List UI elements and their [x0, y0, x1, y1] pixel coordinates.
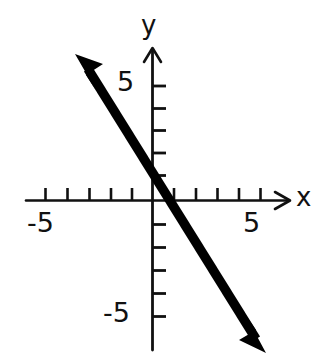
- graph-canvas: [0, 0, 329, 356]
- y-axis-label: y: [141, 12, 156, 38]
- x-axis-group: [26, 188, 290, 209]
- y-tick-label-positive-five: 5: [117, 68, 134, 95]
- x-tick-label-positive-five: 5: [243, 209, 260, 236]
- y-tick-label-negative-five: -5: [103, 299, 130, 326]
- x-tick-label-negative-five: -5: [27, 209, 54, 236]
- coordinate-plane-figure: y x -5 5 5 -5: [0, 0, 329, 356]
- x-axis-label: x: [296, 184, 311, 210]
- y-axis-group: [144, 48, 166, 350]
